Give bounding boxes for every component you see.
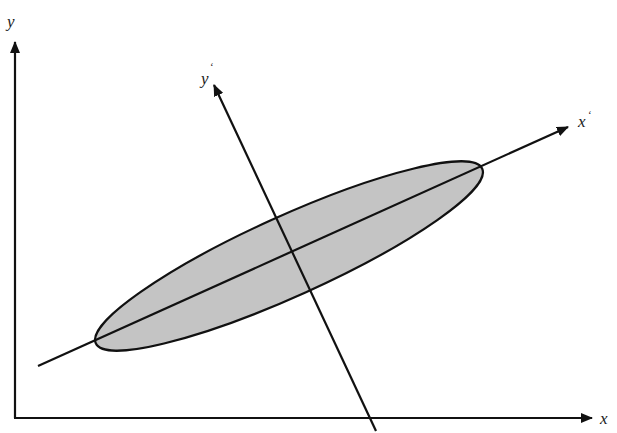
y-prime-axis-label: y ‘ — [199, 60, 214, 88]
svg-text:x: x — [577, 112, 586, 131]
svg-text:‘: ‘ — [210, 60, 214, 72]
x-axis-label: x — [599, 409, 608, 428]
y-axis-label: y — [5, 12, 15, 31]
svg-text:‘: ‘ — [588, 108, 592, 120]
x-prime-axis — [38, 127, 568, 366]
x-prime-axis-label: x ‘ — [577, 108, 592, 131]
ellipse — [79, 132, 498, 379]
svg-text:y: y — [199, 69, 209, 88]
coordinate-diagram: y x x ‘ y ‘ — [0, 0, 617, 433]
